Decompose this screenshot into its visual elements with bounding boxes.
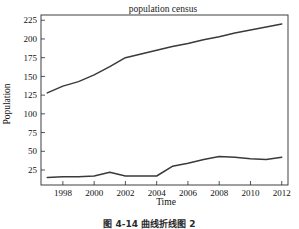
x-tick-label: 2008 xyxy=(210,188,229,198)
y-tick-label: 100 xyxy=(24,109,38,119)
figure-container: population census 2550751001251501752002… xyxy=(0,0,299,229)
y-axis-label: Population xyxy=(2,83,12,124)
series-line-0 xyxy=(47,24,282,93)
y-axis-ticks: 255075100125150175200225 xyxy=(24,15,46,175)
x-tick-label: 2004 xyxy=(148,188,167,198)
y-tick-label: 150 xyxy=(24,72,38,82)
y-tick-label: 175 xyxy=(24,53,38,63)
x-tick-label: 2002 xyxy=(116,188,134,198)
x-tick-label: 2000 xyxy=(85,188,104,198)
y-tick-label: 75 xyxy=(28,128,38,138)
y-tick-label: 200 xyxy=(24,34,38,44)
x-tick-label: 1998 xyxy=(54,188,73,198)
chart-title: population census xyxy=(129,4,198,14)
y-tick-label: 225 xyxy=(24,15,38,25)
figure-caption: 图 4-14 曲线折线图 2 xyxy=(0,219,299,229)
y-tick-label: 25 xyxy=(28,165,38,175)
x-axis-ticks: 19982000200220042006200820102012 xyxy=(54,181,291,198)
x-axis-label: Time xyxy=(156,197,176,207)
data-series-group xyxy=(47,24,282,178)
series-line-1 xyxy=(47,157,282,178)
population-census-line-chart: population census 2550751001251501752002… xyxy=(0,0,299,229)
x-tick-label: 2012 xyxy=(273,188,291,198)
y-tick-label: 125 xyxy=(24,90,38,100)
x-tick-label: 2006 xyxy=(179,188,198,198)
y-tick-label: 50 xyxy=(28,146,38,156)
x-tick-label: 2010 xyxy=(241,188,260,198)
